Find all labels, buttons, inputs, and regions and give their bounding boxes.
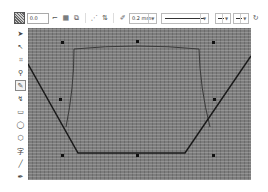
node-handle[interactable] — [212, 41, 215, 44]
divider — [113, 13, 114, 23]
wrap-icon[interactable]: ▦ — [61, 12, 70, 24]
rectangle-tool-icon[interactable]: ▭ — [15, 106, 26, 117]
end-arrow-dropdown[interactable]: ▼ — [233, 13, 249, 24]
eyedropper-tool-icon[interactable]: ✒ — [15, 171, 26, 182]
node-handle[interactable] — [212, 154, 215, 157]
crop-tool-icon[interactable]: ⌗ — [15, 54, 26, 65]
node-connect-icon[interactable]: ⋰ — [90, 12, 99, 24]
smart-fill-tool-icon[interactable]: ↯ — [15, 93, 26, 104]
node-handle[interactable] — [213, 98, 216, 101]
divider — [85, 13, 86, 23]
zoom-tool-icon[interactable]: ⚲ — [15, 67, 26, 78]
pick-tool-icon[interactable]: ➤ — [15, 28, 26, 39]
outer-polyline[interactable] — [28, 56, 251, 153]
ellipse-tool-icon[interactable]: ◯ — [15, 119, 26, 130]
start-arrow-dropdown[interactable]: ▼ — [215, 13, 231, 24]
pen-outline-icon: ✐ — [118, 12, 127, 24]
line-style-dropdown[interactable]: ▼ — [161, 13, 209, 24]
shape-tool-icon[interactable]: ↖ — [15, 41, 26, 52]
chevron-down-icon[interactable]: ▼ — [240, 14, 248, 23]
freehand-tool-icon[interactable]: ✎ — [15, 80, 26, 91]
node-handle[interactable] — [136, 154, 139, 157]
node-handle[interactable] — [61, 154, 64, 157]
rotate-icon[interactable]: ↻ — [251, 12, 260, 24]
drawing-canvas[interactable] — [28, 28, 251, 180]
property-bar: 0.0 ⌐ ▦ ⧉ ⋰ ⇅ ✐ 0.2 mm ▼ ▼ ▼ ▼ ↻ — [14, 10, 260, 26]
toolbox: ➤ ↖ ⌗ ⚲ ✎ ↯ ▭ ◯ ⬡ 字 ╱ ✒ — [14, 28, 27, 186]
inner-curve-shape[interactable] — [66, 46, 210, 127]
position-field[interactable]: 0.0 — [27, 13, 49, 24]
polygon-tool-icon[interactable]: ⬡ — [15, 132, 26, 143]
line-tool-icon[interactable]: ╱ — [15, 158, 26, 169]
pattern-fill-icon[interactable] — [14, 12, 25, 24]
text-tool-icon[interactable]: 字 — [15, 145, 26, 156]
node-handle[interactable] — [61, 41, 64, 44]
node-handle[interactable] — [59, 98, 62, 101]
outline-width-dropdown[interactable]: 0.2 mm ▼ — [129, 13, 157, 24]
selection-nodes — [59, 40, 216, 157]
mirror-icon[interactable]: ⧉ — [72, 12, 81, 24]
chevron-down-icon[interactable]: ▼ — [148, 14, 156, 23]
align-icon[interactable]: ⇅ — [101, 12, 110, 24]
chevron-down-icon[interactable]: ▼ — [200, 14, 208, 23]
canvas-drawing — [28, 28, 251, 180]
node-handle[interactable] — [136, 40, 139, 43]
chevron-down-icon[interactable]: ▼ — [222, 14, 230, 23]
close-curve-icon[interactable]: ⌐ — [51, 12, 60, 24]
